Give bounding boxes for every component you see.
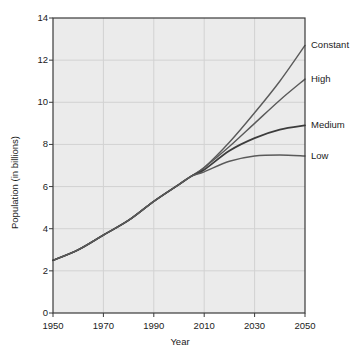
x-tick-label: 2050: [285, 321, 325, 331]
y-tick-label: 12: [26, 55, 48, 65]
x-tick-label: 1950: [33, 321, 73, 331]
series-label-medium: Medium: [311, 120, 345, 130]
chart-figure: 02468101214 195019701990201020302050 Con…: [0, 0, 360, 360]
series-label-high: High: [311, 74, 331, 84]
y-tick-label: 0: [26, 308, 48, 318]
population-projection-chart: [0, 0, 360, 360]
y-tick-label: 4: [26, 224, 48, 234]
series-label-constant: Constant: [311, 40, 349, 50]
y-tick-label: 2: [26, 266, 48, 276]
x-axis-label: Year: [0, 337, 360, 347]
y-tick-label: 14: [26, 13, 48, 23]
x-tick-label: 1990: [134, 321, 174, 331]
y-tick-label: 8: [26, 139, 48, 149]
y-axis-label: Population (in billions): [10, 136, 20, 229]
x-tick-label: 2030: [235, 321, 275, 331]
x-tick-label: 2010: [184, 321, 224, 331]
y-tick-label: 6: [26, 182, 48, 192]
plot-background: [53, 18, 305, 313]
series-label-low: Low: [311, 151, 328, 161]
x-tick-label: 1970: [83, 321, 123, 331]
y-tick-label: 10: [26, 97, 48, 107]
